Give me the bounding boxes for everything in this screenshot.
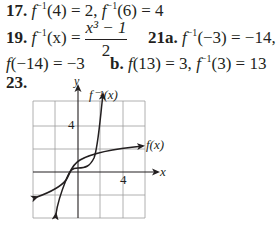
inverse-function-graph: x y 4 4 f(x) f⁻¹(x)	[0, 0, 279, 229]
curve-f-inverse-label: f⁻¹(x)	[89, 87, 118, 102]
x-axis-label: x	[159, 164, 166, 179]
y-tick-label: 4	[68, 117, 75, 132]
curve-f-inverse	[56, 94, 103, 214]
y-axis-label: y	[73, 74, 80, 88]
curve-f-label: f(x)	[146, 137, 164, 152]
x-tick-label: 4	[120, 172, 127, 187]
grid	[33, 101, 145, 218]
